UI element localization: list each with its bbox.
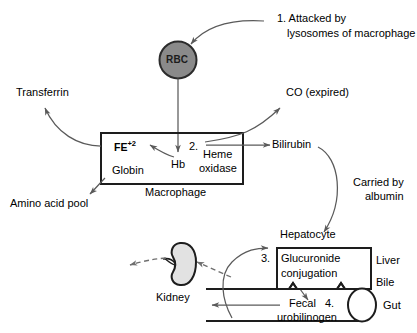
bile-label: Bile	[376, 276, 394, 289]
heme-oxidase-label-line1: Heme	[203, 148, 232, 161]
transferrin-label: Transferrin	[16, 86, 69, 99]
glucuronide-conjugation-line1: Glucuronide	[281, 252, 340, 265]
co-expired-label: CO (expired)	[286, 86, 349, 99]
urobilinogen-label: urobilinogen	[277, 311, 337, 324]
heme-catabolism-diagram: 1. Attacked by lysosomes of macrophage R…	[0, 0, 417, 333]
iron-label-base: FE	[114, 141, 127, 153]
carried-by-albumin-line2: albumin	[365, 190, 404, 203]
rbc-label: RBC	[166, 54, 188, 65]
carried-by-albumin-line1: Carried by	[353, 176, 404, 189]
gut-ellipse	[348, 289, 376, 322]
amino-acid-pool-label: Amino acid pool	[10, 197, 88, 210]
gut-label: Gut	[383, 299, 401, 312]
arrow-urine-out-dashed	[130, 258, 166, 265]
iron-label-superscript: +2	[127, 139, 136, 148]
bilirubin-label: Bilirubin	[272, 138, 311, 151]
hb-label: Hb	[171, 158, 185, 171]
macrophage-label: Macrophage	[145, 186, 206, 199]
kidney-label: Kidney	[156, 291, 190, 304]
arrow-fe-to-transferrin	[45, 108, 101, 146]
arrow-globin-to-amino-acid-pool	[90, 178, 105, 194]
liver-label: Liver	[376, 254, 400, 267]
globin-label: Globin	[112, 164, 144, 177]
kidney-shape	[172, 243, 196, 285]
step4-label: 4.	[325, 297, 334, 310]
step1-annotation-line1: 1. Attacked by	[277, 12, 346, 25]
hepatocyte-label: Hepatocyte	[280, 228, 336, 241]
step3-label: 3.	[261, 252, 270, 265]
arrow-step1-to-rbc	[191, 21, 264, 44]
glucuronide-conjugation-line2: conjugation	[281, 267, 337, 280]
heme-oxidase-label-line2: oxidase	[199, 162, 237, 175]
iron-label: FE+2	[114, 140, 136, 153]
arrow-hb-to-fe	[150, 145, 174, 157]
arrow-bilirubin-to-hepatocyte	[318, 147, 337, 232]
fecal-label: Fecal	[289, 297, 316, 310]
step1-annotation-line2: lysosomes of macrophage	[287, 27, 415, 40]
step2-label: 2.	[189, 140, 198, 153]
